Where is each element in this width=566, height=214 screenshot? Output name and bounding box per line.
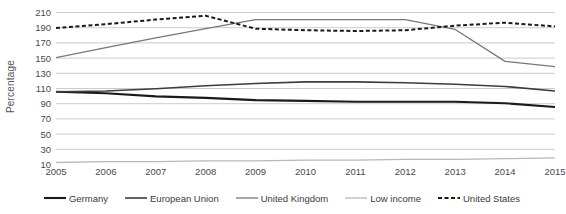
y-axis-tick: 30 [40, 143, 51, 154]
y-axis-title-label: Percentage [6, 59, 17, 112]
legend-label: United States [463, 193, 520, 204]
legend-swatch-icon [44, 194, 66, 202]
y-axis-tick: 170 [35, 37, 51, 48]
x-axis-tick: 2008 [195, 166, 216, 177]
legend-label: United Kingdom [261, 193, 329, 204]
legend-label: Germany [69, 193, 108, 204]
series-lines [56, 16, 555, 163]
y-axis-tick: 210 [35, 7, 51, 18]
legend-swatch-icon [236, 194, 258, 202]
series-line-european-union [56, 82, 555, 92]
x-axis-tick: 2010 [295, 166, 316, 177]
y-axis-tick: 130 [35, 67, 51, 78]
legend-swatch-icon [345, 194, 367, 202]
legend-label: Low income [370, 193, 421, 204]
legend-label: European Union [150, 193, 219, 204]
x-axis-tick: 2009 [245, 166, 266, 177]
y-axis-tick: 70 [40, 113, 51, 124]
series-line-low-income [56, 158, 555, 163]
y-axis-tick-labels: 2101901701501301109070503010 [20, 12, 53, 164]
x-axis-tick-labels: 2005200620072008200920102011201220132014… [56, 166, 555, 182]
chart-legend: GermanyEuropean UnionUnited KingdomLow i… [0, 188, 564, 208]
y-axis-tick: 90 [40, 98, 51, 109]
x-axis-tick: 2012 [395, 166, 416, 177]
y-axis-tick: 190 [35, 22, 51, 33]
legend-item-low-income[interactable]: Low income [345, 193, 421, 204]
y-axis-title: Percentage [2, 0, 20, 172]
legend-item-united-kingdom[interactable]: United Kingdom [236, 193, 329, 204]
x-axis-tick: 2015 [544, 166, 565, 177]
gridlines [56, 13, 555, 165]
x-axis-tick: 2013 [445, 166, 466, 177]
legend-item-united-states[interactable]: United States [438, 193, 520, 204]
legend-item-germany[interactable]: Germany [44, 193, 108, 204]
x-axis-tick: 2011 [345, 166, 365, 177]
plot-area [56, 12, 555, 164]
series-line-united-states [56, 16, 555, 31]
y-axis-tick: 150 [35, 52, 51, 63]
series-line-germany [56, 92, 555, 107]
y-axis-tick: 110 [36, 83, 51, 94]
legend-item-european-union[interactable]: European Union [125, 193, 219, 204]
plot-svg [56, 12, 555, 164]
x-axis-tick: 2006 [95, 166, 116, 177]
legend-swatch-icon [125, 194, 147, 202]
x-axis-tick: 2007 [145, 166, 166, 177]
y-axis-tick: 50 [40, 128, 51, 139]
x-axis-tick: 2014 [495, 166, 516, 177]
legend-swatch-icon [438, 194, 460, 202]
x-axis-tick: 2005 [45, 166, 66, 177]
